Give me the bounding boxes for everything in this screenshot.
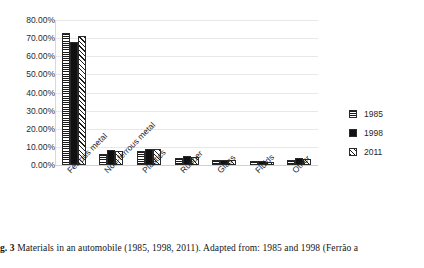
- bar-1985[interactable]: [62, 33, 70, 165]
- y-axis: 80.00%70.00%60.00%50.00%40.00%30.00%20.0…: [0, 0, 55, 185]
- y-axis-tick-label: 10.00%: [3, 143, 55, 152]
- y-axis-tick-label: 60.00%: [3, 52, 55, 61]
- figure-caption-text: Materials in an automobile (1985, 1998, …: [17, 243, 358, 253]
- bar-group: [205, 20, 243, 165]
- legend-label: 1985: [364, 109, 383, 119]
- bar-group: [168, 20, 206, 165]
- chart-legend: 198519982011: [349, 104, 419, 161]
- y-axis-tick-label: 30.00%: [3, 107, 55, 116]
- y-axis-tick-label: 50.00%: [3, 70, 55, 79]
- figure-caption-label: g. 3: [0, 243, 15, 253]
- legend-swatch-icon: [349, 148, 357, 156]
- bar-group: [243, 20, 281, 165]
- bar-group: [55, 20, 93, 165]
- figure: 80.00%70.00%60.00%50.00%40.00%30.00%20.0…: [0, 0, 424, 232]
- y-axis-tick-label: 40.00%: [3, 89, 55, 98]
- legend-label: 1998: [364, 128, 383, 138]
- x-axis-labels: Ferrous metalNon-ferrous metalPlasticsRu…: [55, 166, 318, 232]
- legend-item-1985[interactable]: 1985: [349, 104, 419, 123]
- y-axis-tick-label: 0.00%: [3, 161, 55, 170]
- legend-swatch-icon: [349, 110, 357, 118]
- bar-2011[interactable]: [78, 36, 86, 165]
- legend-item-1998[interactable]: 1998: [349, 123, 419, 142]
- legend-swatch-icon: [349, 129, 357, 137]
- y-axis-tick-label: 20.00%: [3, 125, 55, 134]
- legend-label: 2011: [364, 147, 382, 157]
- bar-1998[interactable]: [70, 42, 78, 165]
- y-axis-tick-label: 70.00%: [3, 34, 55, 43]
- bar-group: [280, 20, 318, 165]
- y-axis-tick-label: 80.00%: [3, 16, 55, 25]
- legend-item-2011[interactable]: 2011: [349, 142, 419, 161]
- figure-caption: g. 3 Materials in an automobile (1985, 1…: [0, 243, 424, 253]
